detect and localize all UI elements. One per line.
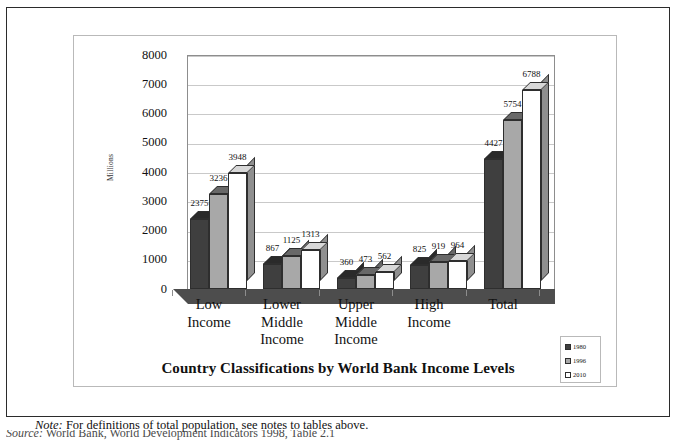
bar-front-face: [375, 272, 394, 289]
bar-value-label: 964: [442, 241, 473, 250]
y-axis-tick: 4000: [142, 166, 167, 178]
legend-swatch-icon: [565, 344, 571, 350]
bar-front-face: [228, 173, 247, 289]
bar-value-label: 1313: [295, 230, 326, 239]
legend-label: 1996: [573, 357, 586, 364]
bar-lower-middle-income-1980: [263, 264, 282, 289]
source-text: World Bank, World Development Indicators…: [46, 430, 335, 440]
legend-label: 1980: [573, 343, 586, 350]
gridline: [188, 56, 554, 57]
x-axis-label-total: Total: [455, 296, 551, 314]
bar-front-face: [410, 265, 429, 289]
bar-upper-middle-income-1996: [356, 275, 375, 289]
gridline: [188, 114, 554, 115]
bar-front-face: [301, 250, 320, 289]
figure-source: Source: World Bank, World Development In…: [6, 430, 670, 440]
legend-item-2010: 2010: [565, 368, 600, 381]
bar-total-1980: [484, 159, 503, 289]
source-label: Source:: [6, 430, 43, 440]
bar-lower-middle-income-1996: [282, 256, 301, 289]
bar-front-face: [484, 159, 503, 289]
bar-lower-middle-income-2010: [301, 250, 320, 289]
y-axis-tick: 7000: [142, 78, 167, 90]
y-axis: Millions 8000 7000 6000 5000 4000 3000 2…: [121, 55, 171, 304]
legend-item-1980: 1980: [565, 340, 600, 353]
bar-front-face: [429, 262, 448, 289]
y-axis-tick: 2000: [142, 224, 167, 236]
bar-high-income-2010: [448, 261, 467, 289]
bar-front-face: [356, 275, 375, 289]
bar-front-face: [209, 194, 228, 289]
bar-value-label: 562: [369, 252, 400, 261]
x-axis-label-line: Income: [381, 314, 477, 332]
y-axis-tick: 5000: [142, 136, 167, 148]
bar-low-income-1980: [190, 219, 209, 289]
chart-legend: 1980 1996 2010: [560, 336, 601, 383]
bar-value-label: 6788: [516, 70, 547, 79]
plot-left-depth-wall: [173, 55, 188, 304]
bar-value-label: 3948: [222, 153, 253, 162]
bar-total-2010: [522, 90, 541, 289]
bar-front-face: [282, 256, 301, 289]
chart-title: Country Classifications by World Bank In…: [121, 360, 555, 377]
y-axis-title: Millions: [106, 154, 115, 181]
legend-swatch-icon: [565, 372, 571, 378]
bar-side-face: [541, 73, 549, 281]
bar-low-income-1996: [209, 194, 228, 289]
bar-high-income-1996: [429, 262, 448, 289]
x-axis-label-line: Total: [455, 296, 551, 314]
bar-front-face: [337, 278, 356, 289]
legend-item-1996: 1996: [565, 354, 600, 367]
legend-label: 2010: [573, 371, 586, 378]
bar-total-1996: [503, 120, 522, 289]
bar-front-face: [522, 90, 541, 289]
bar-upper-middle-income-1980: [337, 278, 356, 289]
y-axis-tick: 3000: [142, 195, 167, 207]
y-axis-tick: 0: [161, 283, 167, 295]
x-axis-labels: Low Income Lower Middle Income Upper Mid…: [121, 296, 555, 358]
bar-low-income-2010: [228, 173, 247, 289]
bar-side-face: [247, 157, 255, 281]
bar-front-face: [263, 264, 282, 289]
bar-front-face: [503, 120, 522, 289]
bar-high-income-1980: [410, 265, 429, 289]
x-axis-label-line: Income: [308, 331, 404, 349]
bar-front-face: [448, 261, 467, 289]
legend-swatch-icon: [565, 358, 571, 364]
y-axis-tick: 6000: [142, 107, 167, 119]
gridline: [188, 85, 554, 86]
figure-outer-frame: Millions 8000 7000 6000 5000 4000 3000 2…: [6, 7, 670, 417]
bar-front-face: [190, 219, 209, 289]
bar-upper-middle-income-2010: [375, 272, 394, 289]
plot-area: Millions 8000 7000 6000 5000 4000 3000 2…: [121, 55, 555, 290]
y-axis-tick: 8000: [142, 49, 167, 61]
y-axis-tick: 1000: [142, 253, 167, 265]
